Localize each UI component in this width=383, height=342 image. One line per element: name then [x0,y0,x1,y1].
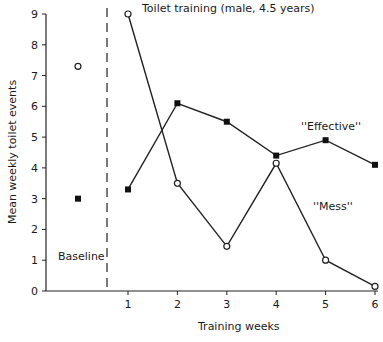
x-tick-label: 3 [223,298,230,311]
series-layer [75,11,378,289]
mess-marker [323,257,329,263]
x-tick-label: 2 [174,298,181,311]
y-tick-label: 7 [31,70,38,83]
mess-marker [372,283,378,289]
x-axis-label: Training weeks [197,320,280,333]
mess-marker [125,11,131,17]
effective-marker [125,186,131,192]
mess-series-label: ''Mess'' [313,200,353,213]
x-tick-label: 4 [273,298,280,311]
effective-marker [174,100,180,106]
y-tick-label: 2 [31,223,38,236]
chart-title: Toilet training (male, 4.5 years) [141,2,315,15]
y-tick-label: 3 [31,193,38,206]
y-axis-label: Mean weekly toilet events [6,80,19,224]
y-tick-label: 4 [31,162,38,175]
series-line [128,14,375,286]
axes: 0123456789123456 [31,8,379,311]
series-line [128,103,375,189]
x-tick-label: 1 [125,298,132,311]
x-tick-label: 5 [322,298,329,311]
y-tick-label: 0 [31,285,38,298]
effective-marker [273,153,279,159]
effective-marker [75,196,81,202]
y-tick-label: 9 [31,8,38,21]
y-tick-label: 5 [31,131,38,144]
effective-marker [323,137,329,143]
y-tick-label: 1 [31,254,38,267]
mess-marker [174,180,180,186]
y-tick-label: 6 [31,100,38,113]
baseline-label: Baseline [58,250,105,263]
x-tick-label: 6 [372,298,379,311]
line-chart: 0123456789123456 Toilet training (male, … [0,0,383,342]
effective-marker [372,162,378,168]
effective-marker [224,119,230,125]
mess-marker [273,160,279,166]
mess-marker [75,63,81,69]
mess-marker [224,243,230,249]
y-tick-label: 8 [31,39,38,52]
effective-series-label: ''Effective'' [301,120,361,133]
